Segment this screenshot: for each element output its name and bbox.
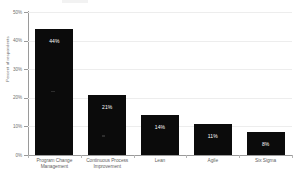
bar-value-label: 21% [88,104,126,110]
bar: 11% [194,124,232,155]
scan-speck [51,91,55,92]
bar: 8% [247,132,285,155]
gridline [28,12,292,13]
x-category-label: Lean [130,158,191,164]
bar: 21% [88,95,126,155]
bar-value-label: 44% [35,38,73,44]
plot-area: 44%21%14%11%8% [28,12,292,155]
scan-speck [102,135,105,137]
bar-chart: Percent of respondents 0%10%20%30%40%50%… [0,0,297,176]
bar-value-label: 14% [141,124,179,130]
y-tick-label: 40% [0,38,22,43]
y-tick-label: 20% [0,95,22,100]
x-category-label: Continuous ProcessImprovement [77,158,138,170]
y-tick-label: 0% [0,153,22,158]
x-category-label-line: Management [24,164,85,170]
scan-artifact-top [62,0,88,3]
bar: 44% [35,29,73,155]
x-category-label-line: Six Sigma [235,158,296,164]
bar-value-label: 11% [194,133,232,139]
x-category-label-line: Improvement [77,164,138,170]
x-axis-line [27,155,293,156]
y-tick-label: 50% [0,10,22,15]
y-tick-label: 10% [0,124,22,129]
y-axis-title: Percent of respondents [3,20,13,98]
bar: 14% [141,115,179,155]
y-tick-label: 30% [0,67,22,72]
x-category-label-line: Agile [182,158,243,164]
bar-value-label: 8% [247,141,285,147]
x-category-label: Six Sigma [235,158,296,164]
x-category-label: Agile [182,158,243,164]
x-category-label-line: Lean [130,158,191,164]
x-tick-mark [292,155,293,158]
x-category-label: Program ChangeManagement [24,158,85,170]
